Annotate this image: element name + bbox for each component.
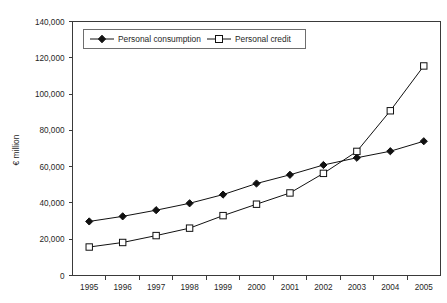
x-tick-label: 2000 [247, 283, 266, 292]
data-point-square [119, 239, 125, 245]
data-point-diamond [320, 161, 327, 168]
x-tick-label: 1999 [214, 283, 233, 292]
y-axis-title: € million [11, 134, 21, 165]
legend-label-personal-credit: Personal credit [235, 34, 292, 44]
x-axis-ticks: 1995199619971998199920002001200220032004… [80, 276, 433, 292]
x-tick-label: 2001 [281, 283, 300, 292]
data-point-diamond [219, 191, 226, 198]
chart-container: 020,00040,00060,00080,000100,000120,0001… [0, 0, 447, 303]
y-tick-label: 40,000 [39, 199, 64, 208]
x-tick-label: 2005 [415, 283, 434, 292]
y-axis-ticks: 020,00040,00060,00080,000100,000120,0001… [35, 18, 73, 281]
x-tick-label: 2002 [314, 283, 333, 292]
y-tick-label: 120,000 [35, 54, 65, 63]
plot-area-frame [73, 22, 441, 276]
data-point-diamond [387, 148, 394, 155]
data-point-diamond [153, 207, 160, 214]
legend-entry-personal-credit: Personal credit [207, 34, 292, 44]
x-tick-label: 2003 [348, 283, 367, 292]
series-2 [86, 63, 427, 250]
y-tick-label: 60,000 [39, 163, 64, 172]
data-point-diamond [186, 200, 193, 207]
x-tick-label: 1995 [80, 283, 99, 292]
series-1 [86, 138, 428, 225]
legend-marker-square-icon [216, 36, 223, 43]
x-tick-label: 1997 [147, 283, 166, 292]
series-line-path [89, 66, 424, 247]
y-tick-label: 0 [60, 272, 65, 281]
x-tick-label: 2004 [381, 283, 400, 292]
data-point-diamond [286, 171, 293, 178]
data-point-diamond [119, 213, 126, 220]
y-tick-label: 140,000 [35, 18, 65, 27]
line-chart: 020,00040,00060,00080,000100,000120,0001… [0, 0, 447, 303]
x-tick-label: 1996 [114, 283, 133, 292]
series-layer [86, 63, 428, 250]
legend-label-personal-consumption: Personal consumption [118, 34, 201, 44]
data-point-diamond [353, 154, 360, 161]
data-point-diamond [86, 218, 93, 225]
data-point-square [287, 190, 293, 196]
data-point-diamond [420, 138, 427, 145]
data-point-diamond [253, 180, 260, 187]
x-tick-label: 1998 [180, 283, 199, 292]
data-point-square [387, 108, 393, 114]
data-point-square [320, 170, 326, 176]
chart-legend: Personal consumption Personal credit [84, 30, 306, 49]
data-point-square [220, 212, 226, 218]
data-point-square [86, 244, 92, 250]
data-point-square [186, 225, 192, 231]
data-point-square [354, 148, 360, 154]
y-tick-label: 80,000 [39, 126, 64, 135]
data-point-square [153, 232, 159, 238]
data-point-square [421, 63, 427, 69]
y-tick-label: 20,000 [39, 235, 64, 244]
data-point-square [253, 201, 259, 207]
y-tick-label: 100,000 [35, 90, 65, 99]
